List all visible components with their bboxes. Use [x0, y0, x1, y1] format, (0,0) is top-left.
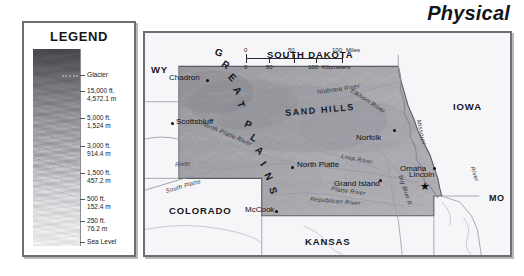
- legend-entry-6-feet: Sea Level: [87, 238, 116, 246]
- legend-entry-1-feet: 5,000 ft.: [87, 114, 111, 122]
- map-panel: 0 50 100 Miles 0 50 100 Kilometers WY SO…: [143, 31, 512, 257]
- region-label-great: G R E A T: [211, 47, 271, 127]
- scale-tick-km-100: [316, 58, 317, 63]
- legend-entry-0-feet: 15,000 ft.: [87, 87, 115, 95]
- legend-tick-3: [80, 173, 85, 174]
- page-title: Physical: [427, 2, 510, 25]
- scale-km-100: 100: [308, 64, 318, 70]
- coastline-shape: [37, 235, 53, 241]
- legend-entry-5-feet: 250 ft.: [87, 217, 105, 225]
- scale-miles-unit: Miles: [346, 47, 360, 53]
- legend-entry-2-meters: 914.4 m: [87, 150, 111, 158]
- scale-tick-100: [342, 54, 343, 63]
- legend-title: LEGEND: [24, 29, 134, 44]
- elevation-relief-gradient-swatch: [33, 49, 80, 246]
- legend-entry-4-feet: 500 ft.: [87, 195, 105, 203]
- legend-entry-2-feet: 3,000 ft.: [87, 142, 111, 150]
- legend-entry-3-feet: 1,500 ft.: [87, 169, 111, 177]
- legend-entry-4-meters: 152.4 m: [87, 203, 111, 211]
- scale-miles-50: 50: [288, 47, 295, 53]
- legend-entry-5-meters: 76.2 m: [87, 225, 107, 233]
- legend-tick-0: [80, 91, 85, 92]
- capital-star-lincoln: ★: [420, 181, 430, 192]
- legend-entry-3-meters: 457.2 m: [87, 177, 111, 185]
- legend-axis-line: [80, 49, 81, 246]
- scale-miles-100: 100: [332, 47, 342, 53]
- legend-tick-4: [80, 199, 85, 200]
- legend-scale-labels: Glacier 15,000 ft. 4,572.1 m 5,000 ft. 1…: [80, 49, 136, 246]
- legend-entry-0-meters: 4,572.1 m: [87, 95, 116, 103]
- legend-glacier-label: Glacier: [87, 71, 108, 79]
- legend-tick-5: [80, 221, 85, 222]
- scale-tick-50: [294, 54, 295, 63]
- legend-tick-1: [80, 118, 85, 119]
- legend-tick-glacier: [80, 75, 85, 76]
- legend-tick-6: [80, 242, 85, 243]
- glacier-dash-icon: [62, 75, 78, 77]
- legend-entry-1-meters: 1,524 m: [87, 122, 111, 130]
- legend-panel: LEGEND Glacier 15,000 ft. 4,572.1 m 5,00…: [22, 21, 136, 257]
- legend-tick-2: [80, 146, 85, 147]
- scale-km-unit: Kilometers: [322, 64, 350, 70]
